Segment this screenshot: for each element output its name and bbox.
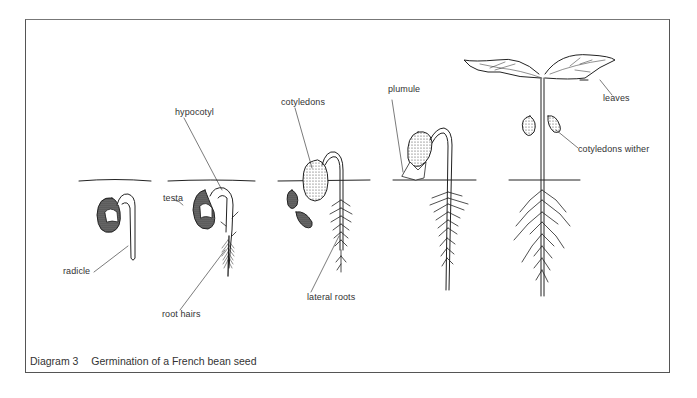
label-leaves: leaves [603, 93, 630, 103]
label-cotyledons-wither: cotyledons wither [578, 144, 649, 154]
label-testa: testa [163, 193, 183, 203]
caption-text: Germination of a French bean seed [91, 355, 256, 367]
caption-number: Diagram 3 [30, 355, 78, 367]
label-hypocotyl: hypocotyl [175, 107, 214, 117]
figure-caption: Diagram 3 Germination of a French bean s… [30, 355, 257, 367]
stage-4-seedling [392, 100, 468, 290]
stage-1-seed [94, 194, 135, 272]
stage-3-seedling [287, 108, 352, 292]
stage-2-seed [174, 118, 238, 310]
label-root-hairs: root hairs [162, 309, 201, 319]
soil-surface-lines [79, 180, 580, 182]
label-lateral-roots: lateral roots [307, 292, 355, 302]
germination-illustration [0, 0, 697, 398]
label-plumule: plumule [388, 84, 420, 94]
stage-5-seedling [464, 55, 615, 296]
label-radicle: radicle [63, 266, 90, 276]
label-cotyledons: cotyledons [281, 97, 325, 107]
